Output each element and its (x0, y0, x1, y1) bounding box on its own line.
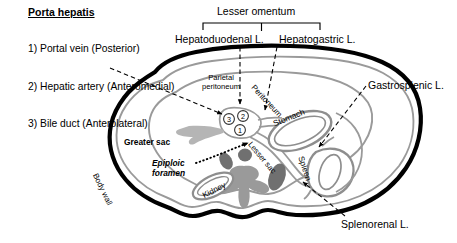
anatomy-diagram: Porta hepatis 1) Portal vein (Posterior)… (0, 0, 457, 243)
porta-hepatis-marker-1: 1 (235, 125, 246, 136)
porta-hepatis-markers: 321 (0, 0, 457, 243)
svg-text:3: 3 (227, 115, 231, 124)
porta-hepatis-marker-3: 3 (224, 114, 235, 125)
svg-text:1: 1 (238, 126, 242, 135)
svg-text:2: 2 (241, 112, 245, 121)
porta-hepatis-marker-2: 2 (238, 111, 249, 122)
